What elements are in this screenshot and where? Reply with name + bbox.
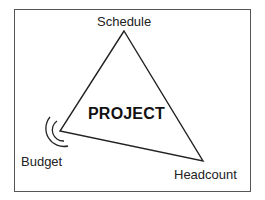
- vertex-label-headcount: Headcount: [174, 167, 237, 182]
- center-label: PROJECT: [88, 105, 165, 123]
- project-triangle: [60, 31, 203, 161]
- vertex-label-budget: Budget: [21, 154, 62, 169]
- vertex-label-schedule: Schedule: [97, 14, 151, 29]
